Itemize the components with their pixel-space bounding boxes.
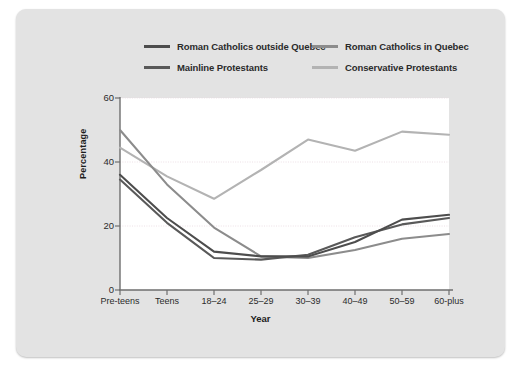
x-tick-label: 25–29 [248,296,273,306]
x-tick-label: 18–24 [201,296,226,306]
x-tick-label: 30–39 [295,296,320,306]
y-tick-label: 40 [88,156,114,167]
x-tick-label: Pre-teens [100,296,139,306]
plot-background [120,98,449,290]
x-tick-label: 60-plus [434,296,464,306]
y-tick-label: 60 [88,92,114,103]
chart-card: Roman Catholics outside Quebec Roman Cat… [16,9,505,357]
y-tick-label: 0 [88,284,114,295]
x-tick-label: 40–49 [342,296,367,306]
x-tick-label: Teens [155,296,179,306]
x-tick-label: 50–59 [389,296,414,306]
y-axis-label: Percentage [78,128,88,179]
x-axis-label: Year [16,313,505,324]
y-tick-label: 20 [88,220,114,231]
